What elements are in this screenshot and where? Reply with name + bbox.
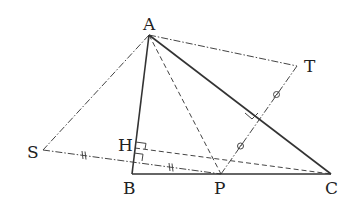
segment-AT (149, 35, 297, 66)
label-T: T (304, 56, 316, 76)
label-P: P (214, 178, 225, 198)
label-A: A (142, 14, 156, 34)
label-C: C (325, 178, 338, 198)
segment-AP (149, 35, 221, 174)
label-H: H (118, 135, 133, 155)
label-S: S (27, 142, 39, 162)
label-B: B (123, 178, 136, 198)
segment-AS (43, 35, 149, 150)
right-angle-mark-H-lower (134, 153, 143, 161)
geometry-diagram: A T S H B P C (0, 0, 358, 208)
